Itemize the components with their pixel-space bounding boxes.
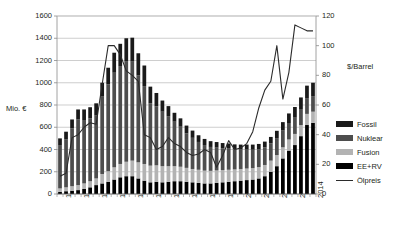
bar-segment (299, 109, 303, 125)
bar-segment (70, 191, 74, 194)
bar-segment (58, 188, 62, 191)
bar-segment (287, 139, 291, 150)
bar-segment (221, 170, 225, 182)
bar-segment (70, 119, 74, 128)
bar-segment (130, 38, 134, 62)
bar-segment (275, 166, 279, 194)
legend-item[interactable]: Fusion (336, 145, 402, 159)
bar-segment (251, 168, 255, 179)
bar-segment (118, 66, 122, 164)
bar-segment (209, 183, 213, 194)
bar-segment (203, 171, 207, 184)
bar-segment (221, 182, 225, 194)
bar-segment (70, 186, 74, 190)
bar-segment (155, 165, 159, 181)
bar-segment (124, 162, 128, 176)
bar-segment (191, 138, 195, 169)
bar-segment (239, 181, 243, 194)
bar-segment (251, 150, 255, 168)
bar-segment (88, 181, 92, 187)
bar-segment (305, 125, 309, 194)
bar-segment (88, 187, 92, 194)
bar-segment (269, 143, 273, 160)
bar-segment (197, 135, 201, 142)
bar-segment (281, 122, 285, 130)
legend-item[interactable]: EE+RV (336, 159, 402, 173)
bar-segment (58, 145, 62, 188)
legend-item[interactable]: Fossil (336, 117, 402, 131)
bar-segment (179, 181, 183, 194)
bar-segment (161, 166, 165, 182)
bar-segment (106, 68, 110, 85)
legend-item[interactable]: Ölpreis (336, 173, 402, 187)
bar-segment (311, 83, 315, 96)
bar-segment (215, 170, 219, 182)
bar-segment (293, 107, 297, 118)
bar-segment (100, 174, 104, 183)
bar-segment (209, 171, 213, 184)
bar-segment (275, 131, 279, 138)
bar-segment (299, 136, 303, 194)
bar-segment (197, 170, 201, 183)
bar-segment (173, 166, 177, 181)
bar-segment (257, 144, 261, 149)
bar-segment (293, 118, 297, 134)
bar-segment (185, 126, 189, 134)
bar-segment (76, 109, 80, 119)
bar-segment (251, 180, 255, 194)
bar-segment (179, 118, 183, 126)
bar-segment (64, 187, 68, 191)
bar-segment (94, 185, 98, 194)
bar-segment (148, 166, 152, 183)
bar-segment (269, 161, 273, 172)
bar-segment (239, 169, 243, 181)
bar-segment (142, 164, 146, 181)
bar-segment (227, 149, 231, 170)
bar-segment (311, 123, 315, 194)
bar-segment (299, 125, 303, 136)
legend-line-marker (336, 180, 353, 181)
bar-segment (257, 178, 261, 194)
bar-segment (245, 180, 249, 194)
bar-segment (185, 182, 189, 194)
bar-segment (136, 53, 140, 75)
legend-color-swatch (336, 121, 353, 127)
bar-segment (167, 106, 171, 116)
bar-segment (299, 97, 303, 109)
bar-segment (142, 66, 146, 87)
bar-segment (203, 139, 207, 145)
bar-segment (287, 113, 291, 123)
bar-segment (58, 138, 62, 145)
bar-segment (118, 177, 122, 194)
bar-segment (191, 182, 195, 194)
legend-color-swatch (336, 135, 353, 141)
bar-segment (136, 162, 140, 178)
bar-segment (112, 73, 116, 168)
bar-segment (124, 62, 128, 162)
bar-segment (148, 182, 152, 194)
bar-segment (76, 119, 80, 185)
bar-segment (287, 123, 291, 139)
bar-segment (88, 118, 92, 181)
bar-segment (94, 116, 98, 179)
bar-segment (161, 112, 165, 167)
bar-segment (142, 181, 146, 194)
bar-segment (106, 182, 110, 194)
bar-segment (209, 141, 213, 147)
bar-segment (179, 167, 183, 181)
bar-segment (287, 151, 291, 194)
bar-segment (257, 167, 261, 178)
bar-segment (281, 158, 285, 194)
bar-segment (305, 86, 309, 98)
bar-segment (94, 178, 98, 185)
bar-segment (161, 182, 165, 194)
legend-item[interactable]: Nuklear (336, 131, 402, 145)
bar-segment (136, 178, 140, 194)
bar-segment (293, 145, 297, 194)
bar-segment (118, 164, 122, 177)
bar-segment (124, 176, 128, 194)
bar-segment (130, 161, 134, 177)
bar-segment (191, 169, 195, 182)
bar-segment (88, 107, 92, 118)
bar-segment (311, 112, 315, 123)
